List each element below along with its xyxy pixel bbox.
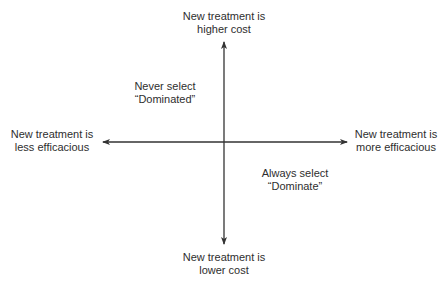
bottom-axis-label: New treatment is lower cost (164, 251, 284, 277)
top-axis-label-line2: higher cost (164, 23, 284, 36)
right-axis-label: New treatment is more efficacious (347, 128, 445, 154)
quadrant-upper-left-line1: Never select (115, 80, 215, 93)
left-axis-label: New treatment is less efficacious (4, 128, 100, 154)
left-axis-label-line1: New treatment is (4, 128, 100, 141)
bottom-axis-label-line1: New treatment is (164, 251, 284, 264)
top-axis-label: New treatment is higher cost (164, 10, 284, 36)
top-axis-label-line1: New treatment is (164, 10, 284, 23)
quadrant-lower-right-label: Always select “Dominate” (245, 167, 345, 193)
right-axis-label-line2: more efficacious (347, 141, 445, 154)
quadrant-upper-left-label: Never select “Dominated” (115, 80, 215, 106)
left-axis-label-line2: less efficacious (4, 141, 100, 154)
quadrant-upper-left-line2: “Dominated” (115, 93, 215, 106)
quadrant-lower-right-line1: Always select (245, 167, 345, 180)
quadrant-lower-right-line2: “Dominate” (245, 180, 345, 193)
right-axis-label-line1: New treatment is (347, 128, 445, 141)
bottom-axis-label-line2: lower cost (164, 264, 284, 277)
